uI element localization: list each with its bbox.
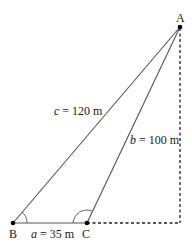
label-a: A [176,11,185,25]
side-c [13,27,180,223]
angle-c-arc [73,210,92,223]
label-c: C [82,227,90,241]
label-side-c: c = 120 m [54,104,103,118]
point-c [85,221,90,226]
triangle-diagram: A B C c = 120 m b = 100 m a = 35 m [0,0,192,248]
label-side-a: a = 35 m [31,227,75,241]
label-side-b: b = 100 m [130,133,180,147]
label-b: B [9,227,17,241]
point-b [11,221,16,226]
side-b [87,27,180,223]
angle-b-arc [22,212,27,223]
point-a [178,25,183,30]
